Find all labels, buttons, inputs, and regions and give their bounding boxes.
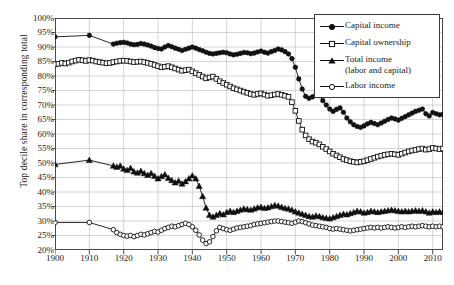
x-axis-ticks: 1900191019201930194019501960197019801990… [55,254,443,274]
data-point [200,193,206,198]
data-point [300,127,305,132]
chart-figure: Top decile share in corresponding total … [0,0,454,285]
legend-label: Total income(labor and capital) [345,54,411,75]
data-point [86,157,92,162]
data-point [293,65,298,70]
y-axis-ticks: 100%95%90%85%80%75%70%65%60%55%50%45%40%… [14,18,54,250]
data-point [321,98,326,103]
data-point [196,183,202,188]
data-point [207,240,212,245]
data-point [87,220,92,225]
legend-marker-open-circle-icon [319,81,345,92]
series-2 [55,157,443,221]
data-point [87,33,92,38]
legend-item[interactable]: Capital income [319,20,435,32]
legend-label: Capital ownership [345,37,411,48]
data-point [290,56,295,61]
legend-label: Capital income [345,20,400,31]
data-point [427,114,432,119]
y-tick-marks [50,18,56,250]
data-point [296,119,301,124]
data-point [162,171,168,176]
data-point [286,95,291,100]
data-point [127,165,133,170]
data-point [441,146,443,151]
data-point [441,112,443,117]
data-point [211,234,216,239]
data-point [296,77,301,82]
series-3 [55,219,443,246]
legend-item[interactable]: Labor income [319,80,435,92]
data-point [300,87,305,92]
data-point [441,225,443,230]
legend-marker-filled-triangle-icon [319,55,345,66]
data-point [197,233,202,238]
legend-label: Labor income [345,80,395,91]
legend-marker-filled-circle-icon [319,21,345,32]
data-point [286,52,291,57]
data-point [203,205,209,210]
data-point [293,109,298,114]
data-point [345,116,350,121]
chart-legend: Capital incomeCapital ownershipTotal inc… [314,14,440,98]
legend-item[interactable]: Capital ownership [319,37,435,49]
x-tick-marks [55,250,443,256]
data-point [193,228,198,233]
legend-marker-open-square-icon [319,38,345,49]
data-point [338,106,343,111]
legend-label-sub: (labor and capital) [345,65,411,76]
data-point [324,103,329,108]
data-point [341,110,346,115]
data-point [290,100,295,105]
data-point [420,107,425,112]
legend-item[interactable]: Total income(labor and capital) [319,54,435,75]
